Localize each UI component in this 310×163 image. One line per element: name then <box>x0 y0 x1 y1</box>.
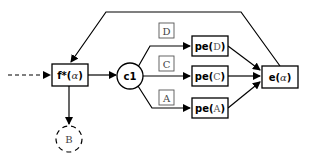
edge-label-A: A <box>159 90 174 105</box>
svg-text:e(α): e(α) <box>269 72 292 83</box>
svg-text:B: B <box>65 134 72 145</box>
edges <box>8 12 280 124</box>
node-pe-D[interactable]: pe(D) <box>192 36 228 56</box>
node-B[interactable]: B <box>56 126 82 152</box>
svg-text:A: A <box>162 93 171 104</box>
node-pe-C[interactable]: pe(C) <box>192 66 228 86</box>
edge-label-D: D <box>159 23 174 38</box>
edge-label-C: C <box>159 56 174 71</box>
node-e[interactable]: e(α) <box>262 66 298 88</box>
svg-text:C: C <box>163 59 171 70</box>
svg-text:D: D <box>162 26 170 37</box>
edge-peD-to-e <box>228 46 260 70</box>
node-pe-A[interactable]: pe(A) <box>192 98 228 118</box>
node-c1[interactable]: c1 <box>117 63 143 89</box>
svg-text:pe(D): pe(D) <box>195 41 226 52</box>
node-f-star[interactable]: f*(α) <box>52 64 88 86</box>
svg-text:f*(α): f*(α) <box>57 70 83 81</box>
svg-text:c1: c1 <box>124 71 137 82</box>
edge-peA-to-e <box>228 82 260 108</box>
edge-e-to-f-feedback <box>71 12 280 66</box>
diagram-canvas: D C A f*(α) c1 B pe(D) pe(C) pe(A) e( <box>0 0 310 163</box>
svg-text:pe(A): pe(A) <box>195 103 225 114</box>
svg-text:pe(C): pe(C) <box>195 71 225 82</box>
